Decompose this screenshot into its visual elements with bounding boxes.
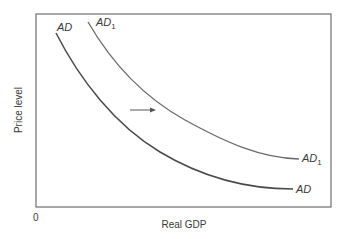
ad1-start-base: AD	[95, 16, 111, 28]
ad-start-label: AD	[56, 21, 72, 33]
ad1-end-base: AD	[301, 152, 317, 164]
x-axis-label: Real GDP	[161, 219, 206, 230]
origin-label: 0	[33, 212, 39, 223]
aggregate-demand-chart: AD AD AD1 AD1 0 Real GDP Price level	[0, 0, 345, 239]
y-axis-label: Price level	[13, 87, 24, 133]
ad1-end-label: AD1	[301, 152, 322, 167]
shift-right-arrow-icon	[130, 108, 156, 113]
ad1-curve	[88, 22, 299, 159]
ad-curve	[56, 33, 293, 189]
ad-end-label: AD	[295, 183, 311, 195]
ad1-start-label: AD1	[95, 16, 116, 31]
ad1-end-sub: 1	[317, 158, 322, 167]
ad1-start-sub: 1	[111, 22, 116, 31]
plot-frame	[36, 14, 331, 207]
